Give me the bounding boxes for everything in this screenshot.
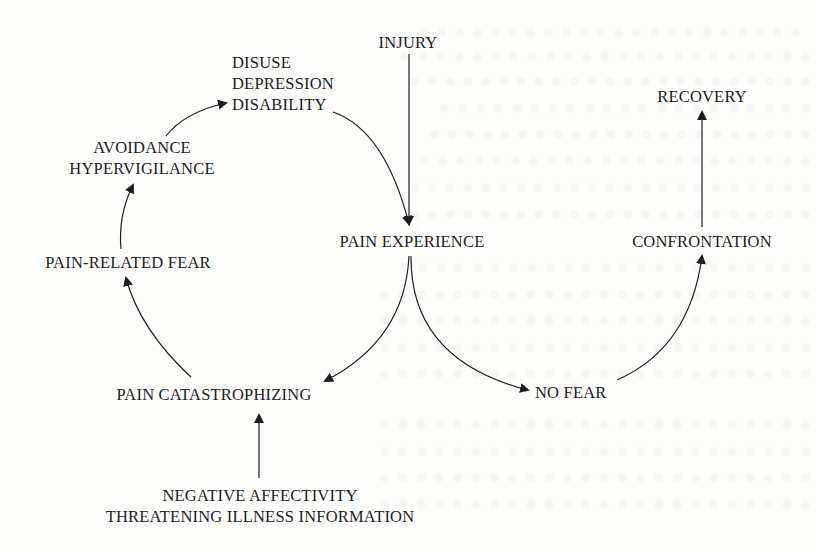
node-label: DISABILITY xyxy=(232,94,334,115)
node-label: HYPERVIGILANCE xyxy=(52,158,232,179)
node-no-fear: NO FEAR xyxy=(535,382,607,403)
node-recovery: RECOVERY xyxy=(642,86,762,107)
node-label: NEGATIVE AFFECTIVITY xyxy=(90,485,430,506)
arrow-fear-to-avoidance xyxy=(121,185,134,249)
node-label: RECOVERY xyxy=(642,86,762,107)
node-label: PAIN-RELATED FEAR xyxy=(28,252,228,273)
arrow-disability-to-pain-experience xyxy=(333,112,409,224)
node-disuse-depression-disability: DISUSE DEPRESSION DISABILITY xyxy=(232,52,334,115)
node-confrontation: CONFRONTATION xyxy=(612,231,792,252)
node-label: CONFRONTATION xyxy=(612,231,792,252)
arrow-avoidance-to-disuse xyxy=(166,103,226,136)
node-label: PAIN CATASTROPHIZING xyxy=(94,384,334,405)
node-label: INJURY xyxy=(358,32,458,53)
node-avoidance-hypervigilance: AVOIDANCE HYPERVIGILANCE xyxy=(52,137,232,179)
node-pain-catastrophizing: PAIN CATASTROPHIZING xyxy=(94,384,334,405)
node-label: DISUSE xyxy=(232,52,334,73)
node-pain-experience: PAIN EXPERIENCE xyxy=(322,231,502,252)
node-injury: INJURY xyxy=(358,32,458,53)
node-pain-related-fear: PAIN-RELATED FEAR xyxy=(28,252,228,273)
arrow-pain-experience-to-catastrophizing xyxy=(325,256,409,381)
node-label: AVOIDANCE xyxy=(52,137,232,158)
node-label: DEPRESSION xyxy=(232,73,334,94)
node-label: PAIN EXPERIENCE xyxy=(322,231,502,252)
arrow-no-fear-to-confrontation xyxy=(617,256,702,380)
node-label: NO FEAR xyxy=(535,382,607,403)
node-label: THREATENING ILLNESS INFORMATION xyxy=(90,506,430,527)
arrow-catastrophizing-to-fear xyxy=(126,278,191,377)
node-negative-affectivity: NEGATIVE AFFECTIVITY THREATENING ILLNESS… xyxy=(90,485,430,527)
diagram-arrows xyxy=(0,0,815,553)
arrow-pain-experience-to-no-fear xyxy=(411,256,528,390)
